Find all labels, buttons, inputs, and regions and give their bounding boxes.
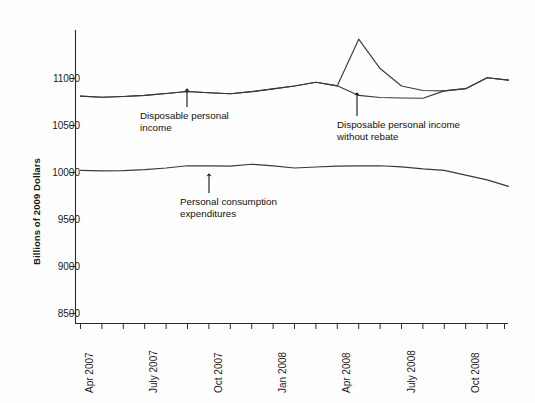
chart-figure: Billions of 2009 Dollars 8500 9000 9500 … [0,0,535,403]
y-axis-ticks [70,79,75,314]
series-line-disposable-personal-income [81,39,509,97]
chart-plot-area [0,0,535,403]
series-line-disposable-personal-income-without-rebate [81,78,509,98]
series-line-personal-consumption-expenditures [81,164,509,186]
